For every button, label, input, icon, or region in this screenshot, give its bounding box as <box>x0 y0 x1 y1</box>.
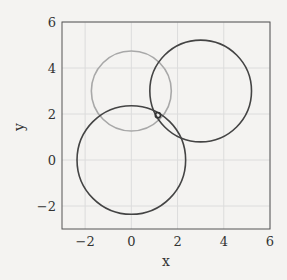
plot-shapes <box>77 40 251 214</box>
x-tick-labels: −20246 <box>76 234 275 249</box>
y-tick-label: 2 <box>48 107 56 122</box>
y-tick-label: −2 <box>37 199 56 214</box>
x-tick-label: 0 <box>127 234 135 249</box>
x-tick-label: 6 <box>266 234 274 249</box>
circle-right <box>150 40 252 142</box>
x-tick-label: 2 <box>173 234 181 249</box>
y-axis-label: y <box>11 123 27 132</box>
chart: −20246 −20246 x y <box>0 0 287 280</box>
y-tick-label: 0 <box>48 153 56 168</box>
x-tick-label: 4 <box>220 234 228 249</box>
y-tick-labels: −20246 <box>37 15 56 214</box>
y-tick-label: 6 <box>48 15 56 30</box>
x-axis-label: x <box>162 253 170 269</box>
y-tick-label: 4 <box>48 61 56 76</box>
x-tick-label: −2 <box>76 234 95 249</box>
intersection-marker <box>155 113 160 118</box>
